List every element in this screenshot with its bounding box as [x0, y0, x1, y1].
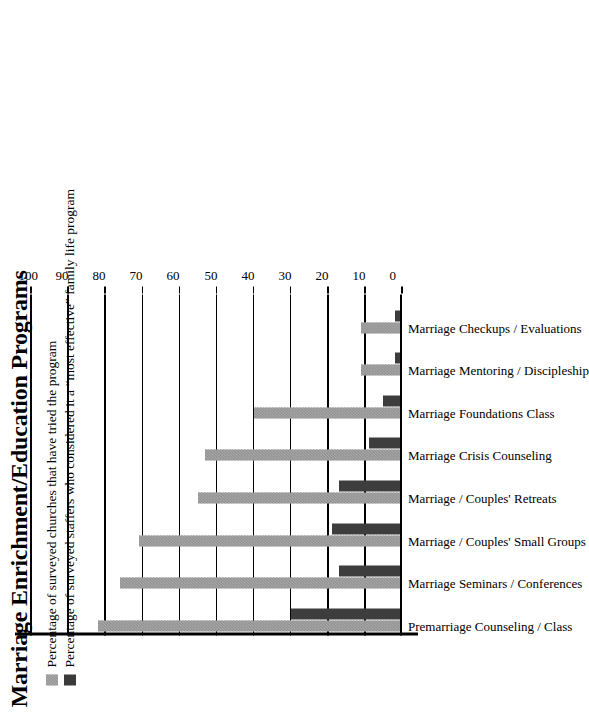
- category-label: Marriage / Couples' Small Groups: [408, 534, 586, 547]
- axis-tick: [216, 286, 218, 293]
- bar: [332, 523, 402, 534]
- axis-tick-label: 20: [315, 269, 339, 282]
- bar: [120, 577, 402, 588]
- category-label: Premarriage Counseling / Class: [408, 619, 572, 632]
- bar: [339, 480, 402, 491]
- axis-tick: [179, 286, 181, 293]
- value-axis-baseline: [400, 294, 402, 635]
- bar-group: [31, 511, 402, 546]
- axis-tick: [327, 286, 329, 293]
- category-label: Marriage Seminars / Conferences: [408, 576, 582, 589]
- category-label: Marriage / Couples' Retreats: [408, 491, 557, 504]
- axis-tick: [401, 286, 403, 293]
- axis-tick-label: 50: [204, 269, 228, 282]
- chart-title: Marriage Enrichment/Education Programs: [6, 17, 33, 707]
- bar: [339, 565, 402, 576]
- axis-tick: [104, 286, 106, 293]
- plot-area: 0102030405060708090100: [31, 294, 402, 635]
- axis-tick: [142, 286, 144, 293]
- bar: [291, 608, 402, 619]
- bar: [361, 364, 402, 375]
- category-label: Marriage Crisis Counseling: [408, 449, 552, 462]
- axis-tick: [290, 286, 292, 293]
- bar: [361, 322, 402, 333]
- category-axis-labels: Premarriage Counseling / ClassMarriage S…: [404, 0, 434, 721]
- axis-tick-label: 30: [278, 269, 302, 282]
- bar-group: [31, 298, 402, 333]
- bar-series-group: [31, 294, 402, 635]
- dark-solid-swatch: [64, 674, 76, 685]
- axis-tick-label: 90: [56, 269, 80, 282]
- bar: [369, 438, 402, 449]
- axis-tick-label: 70: [130, 269, 154, 282]
- bar: [139, 535, 402, 546]
- bar-group: [31, 426, 402, 461]
- bar-group: [31, 596, 402, 631]
- bar: [198, 492, 402, 503]
- axis-tick-label: 100: [19, 269, 43, 282]
- axis-tick-label: 10: [352, 269, 376, 282]
- bar: [205, 450, 402, 461]
- category-label: Marriage Mentoring / Discipleship: [408, 363, 589, 376]
- axis-tick-label: 80: [93, 269, 117, 282]
- light-hatched-swatch: [46, 674, 58, 685]
- axis-tick: [253, 286, 255, 293]
- axis-tick: [30, 286, 32, 293]
- axis-tick: [364, 286, 366, 293]
- axis-tick-label: 60: [167, 269, 191, 282]
- axis-tick: [67, 286, 69, 293]
- bar: [254, 407, 402, 418]
- axis-tick-label: 40: [241, 269, 265, 282]
- bar-group: [31, 469, 402, 504]
- bar-group: [31, 341, 402, 376]
- bar-group: [31, 554, 402, 589]
- category-label: Marriage Checkups / Evaluations: [408, 321, 582, 334]
- bar-group: [31, 383, 402, 418]
- bar: [98, 620, 402, 631]
- category-label: Marriage Foundations Class: [408, 406, 555, 419]
